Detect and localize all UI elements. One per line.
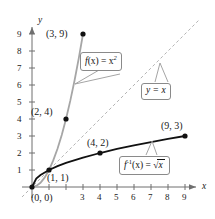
- callout-finv-radicand: x: [157, 159, 164, 170]
- y-tick-label-7: 7: [17, 64, 22, 73]
- callout-f-x-squared: f(x) = x2: [80, 52, 122, 71]
- callout-identity-text: y = x: [146, 85, 166, 95]
- point-2-4: [63, 116, 68, 121]
- x-tick-label-4: 4: [97, 193, 102, 202]
- leader-lines-identity-callout: [155, 63, 168, 82]
- y-tick-label-4: 4: [17, 115, 22, 124]
- callout-f-exponent: 2: [114, 54, 117, 61]
- x-tick-label-7: 7: [148, 193, 153, 202]
- x-tick-label-5: 5: [114, 193, 119, 202]
- point-0-0: [29, 184, 34, 189]
- callout-finv-middle: (x) =: [132, 160, 153, 170]
- y-tick-label-2: 2: [17, 149, 22, 158]
- x-tick-label-9: 9: [182, 193, 187, 202]
- x-tick-label-8: 8: [165, 193, 170, 202]
- y-tick-label-8: 8: [17, 47, 22, 56]
- y-tick-label-1: 1: [17, 166, 22, 175]
- y-tick-label-6: 6: [17, 81, 22, 90]
- callout-f-middle: (x) = x: [88, 56, 114, 66]
- point-9-3: [182, 133, 187, 138]
- x-axis-label: x: [202, 182, 206, 192]
- callout-y-equals-x: y = x: [141, 83, 171, 100]
- y-axis-label: y: [38, 16, 42, 26]
- y-tick-label-9: 9: [17, 30, 22, 39]
- callout-f-inverse-sqrt-x: f-1(x) = √x: [119, 156, 170, 175]
- x-tick-label-3: 3: [80, 193, 85, 202]
- point-label-4-2: (4, 2): [87, 138, 109, 148]
- y-tick-label-5: 5: [17, 98, 22, 107]
- point-label-9-3: (9, 3): [161, 121, 183, 131]
- point-label-0-0: (0, 0): [31, 193, 53, 203]
- point-label-2-4: (2, 4): [31, 107, 53, 117]
- point-label-1-1: (1, 1): [47, 173, 69, 183]
- y-axis-arrowhead: [29, 27, 35, 34]
- x-axis-arrowhead: [189, 184, 196, 190]
- inverse-function-figure: y x 1 2 3 4 5 6 7 8 9 3 4 5 6 7 8 9 (0, …: [0, 0, 215, 219]
- y-tick-label-3: 3: [17, 132, 22, 141]
- point-3-9: [80, 31, 85, 36]
- point-label-3-9: (3, 9): [46, 29, 68, 39]
- x-tick-label-6: 6: [131, 193, 136, 202]
- point-4-2: [97, 150, 102, 155]
